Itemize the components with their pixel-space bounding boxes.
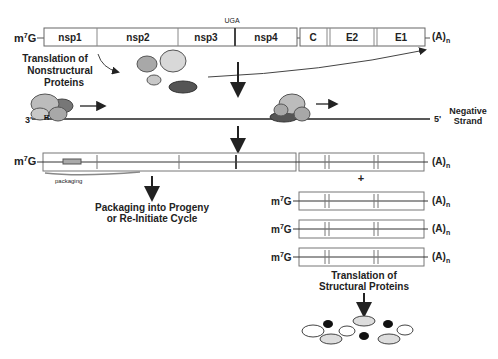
protein-icon xyxy=(147,75,161,85)
subgenomic-rna: m7G (A)n xyxy=(271,248,450,266)
svg-text:Strand: Strand xyxy=(454,116,483,126)
subgenomic-rna: m7G (A)n xyxy=(271,192,450,210)
svg-text:packaging: packaging xyxy=(55,178,82,184)
svg-text:m7G: m7G xyxy=(14,155,36,167)
translation-structural-label: Translation of xyxy=(331,270,397,281)
svg-text:m7G: m7G xyxy=(271,195,292,207)
genomic-rna: m7G nsp1 nsp2 nsp3 nsp4 UGA C E2 E1 (A)n xyxy=(14,17,450,46)
svg-text:(A)n: (A)n xyxy=(432,223,450,236)
replicase-complex-icon: Ħ xyxy=(31,94,73,121)
protein-icon xyxy=(137,56,157,72)
segment-nsp1: nsp1 xyxy=(58,32,82,43)
segment-e2: E2 xyxy=(346,32,359,43)
packaging-progeny-label: Packaging into Progeny xyxy=(95,202,209,213)
structural-proteins xyxy=(302,316,413,344)
svg-text:m7G: m7G xyxy=(271,251,292,263)
protein-icon xyxy=(160,50,186,72)
svg-text:or Re-Initiate Cycle: or Re-Initiate Cycle xyxy=(107,213,198,224)
translation-nonstructural: Translation of Nonstructural Proteins xyxy=(22,50,425,93)
segment-e1: E1 xyxy=(395,32,408,43)
segment-nsp2: nsp2 xyxy=(126,32,150,43)
svg-text:Proteins: Proteins xyxy=(44,77,84,88)
progeny-genome: m7G (A)n packaging xyxy=(14,153,450,184)
svg-text:3': 3' xyxy=(25,115,32,125)
alphavirus-replication-diagram: m7G nsp1 nsp2 nsp3 nsp4 UGA C E2 E1 (A)n… xyxy=(0,0,498,359)
subgenomic-rna: m7G (A)n xyxy=(271,220,450,238)
svg-text:Structural Proteins: Structural Proteins xyxy=(319,281,409,292)
svg-text:5': 5' xyxy=(434,114,441,124)
svg-text:(A)n: (A)n xyxy=(432,195,450,208)
svg-text:(A)n: (A)n xyxy=(432,251,450,264)
protein-icon xyxy=(169,81,197,93)
svg-text:Negative: Negative xyxy=(449,106,487,116)
poly-a-label: (A)n xyxy=(432,31,450,44)
svg-text:(A)n: (A)n xyxy=(432,156,450,169)
svg-text:m7G: m7G xyxy=(271,223,292,235)
segment-nsp4: nsp4 xyxy=(254,32,278,43)
svg-text:Ħ: Ħ xyxy=(44,114,49,121)
cap-label: m7G xyxy=(14,32,36,44)
segment-c: C xyxy=(309,32,316,43)
svg-text:Nonstructural: Nonstructural xyxy=(27,65,93,76)
svg-text:Translation of: Translation of xyxy=(22,53,88,64)
replicase-complex-icon xyxy=(270,94,310,122)
svg-text:+: + xyxy=(358,172,364,184)
negative-strand: 3' 5' Negative Strand Ħ xyxy=(25,94,487,126)
stop-codon-label: UGA xyxy=(224,17,240,24)
segment-nsp3: nsp3 xyxy=(194,32,218,43)
packaging-signal xyxy=(63,159,81,164)
